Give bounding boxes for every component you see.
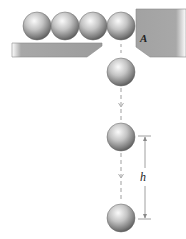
shelf <box>12 43 102 57</box>
ball-row <box>23 12 135 40</box>
block-a-label: A <box>140 32 147 44</box>
ball <box>107 58 135 86</box>
falling-balls-diagram <box>0 0 186 239</box>
ball <box>107 204 135 232</box>
falling-balls <box>107 58 135 232</box>
ball <box>23 12 51 40</box>
ball <box>107 123 135 151</box>
ball <box>107 12 135 40</box>
height-label: h <box>140 170 146 185</box>
ball <box>79 12 107 40</box>
ball <box>51 12 79 40</box>
